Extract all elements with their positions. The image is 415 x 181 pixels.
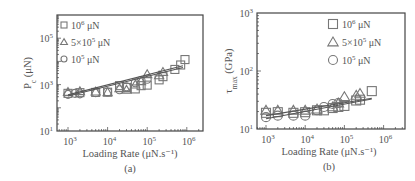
x-tick-label: 104: [103, 135, 117, 147]
y-axis-label-a: Pc (μN): [22, 56, 38, 89]
legend-circle-icon: [61, 56, 67, 62]
legend-circle-icon: [329, 56, 338, 65]
y-tick-label: 101: [240, 123, 254, 135]
legend-entry-label: 5×105 μN: [342, 36, 381, 48]
legend-entry-label: 106 μN: [71, 19, 100, 31]
legend-entry-label: 5×105 μN: [71, 36, 110, 48]
figure-canvas: 101103105 103104105106 106 μN5×105 μN105…: [0, 0, 415, 181]
legend-square-icon: [61, 22, 67, 28]
chart-panel-b: 101102103 103104105106 106 μN5×105 μN105…: [223, 7, 405, 173]
x-tick-labels-b: 103104105106: [261, 133, 393, 145]
x-tick-label: 106: [379, 133, 393, 145]
x-tick-label: 106: [182, 135, 196, 147]
y-tick-labels-b: 101102103: [240, 7, 254, 135]
y-axis-label-b: τmax (GPa): [223, 48, 239, 93]
y-axis-label-sub-b: max: [230, 76, 239, 89]
plot-frame-a: [57, 15, 203, 131]
y-tick-label: 102: [240, 65, 254, 77]
y-tick-label: 105: [40, 32, 54, 44]
y-tick-label: 103: [240, 7, 254, 19]
y-tick-label: 103: [40, 79, 54, 91]
caption-b: (b): [323, 161, 336, 173]
legend-entry-label: 105 μN: [342, 54, 371, 66]
legend-square-icon: [329, 20, 338, 29]
x-tick-label: 104: [300, 133, 314, 145]
y-tick-labels-a: 101103105: [40, 32, 54, 137]
square-marker: [367, 87, 376, 96]
y-axis-label-unit-a: (μN): [22, 56, 34, 79]
data-points-a: [63, 56, 189, 99]
chart-panel-a: 101103105 103104105106 106 μN5×105 μN105…: [22, 15, 203, 175]
x-axis-label-b: Loading Rate (μN.s⁻¹): [281, 146, 377, 158]
legend-triangle-icon: [328, 37, 338, 46]
x-tick-label: 105: [340, 133, 354, 145]
circle-marker: [289, 111, 298, 120]
legend-b: 106 μN5×105 μN105 μN: [328, 18, 381, 66]
x-axis-label-a: Loading Rate (μN.s⁻¹): [82, 148, 178, 160]
x-tick-label: 103: [63, 135, 77, 147]
x-tick-label: 105: [142, 135, 156, 147]
caption-a: (a): [124, 163, 136, 175]
y-tick-label: 101: [40, 125, 54, 137]
x-tick-labels-a: 103104105106: [63, 135, 196, 147]
legend-entry-label: 105 μN: [71, 53, 100, 65]
legend-entry-label: 106 μN: [342, 18, 371, 30]
x-tick-label: 103: [261, 133, 275, 145]
legend-a: 106 μN5×105 μN105 μN: [61, 19, 111, 65]
y-axis-label-unit-b: (GPa): [223, 48, 235, 76]
legend-triangle-icon: [61, 39, 68, 45]
